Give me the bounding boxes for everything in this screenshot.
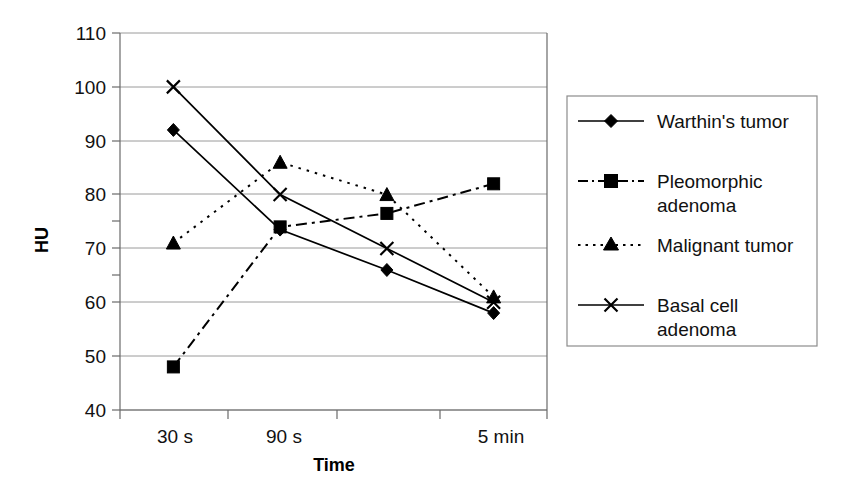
y-tick-label-90: 90 [85, 131, 106, 152]
y-tick-label-70: 70 [85, 238, 106, 259]
legend-label-4: Basal cell [657, 295, 738, 316]
legend-label-4-line2: adenoma [657, 319, 737, 340]
y-tick-label-60: 60 [85, 292, 106, 313]
y-tick-label-110: 110 [76, 23, 106, 44]
x-axis-title: Time [313, 455, 355, 475]
y-tick-label-80: 80 [85, 184, 106, 205]
legend-label-1: Warthin's tumor [657, 111, 789, 132]
x-tick-label-1: 30 s [157, 426, 193, 447]
y-tick-marks [112, 33, 120, 410]
data-point-square-icon [274, 221, 286, 233]
legend-label-2: Pleomorphic [657, 171, 763, 192]
y-tick-label-100: 100 [74, 77, 106, 98]
data-point-square-icon [381, 207, 393, 219]
x-tick-label-4: 5 min [478, 426, 524, 447]
x-tick-label-2: 90 s [266, 426, 302, 447]
legend: Warthin's tumor Pleomorphic adenoma Mali… [567, 96, 817, 346]
chart-figure: 110 100 90 80 70 60 50 40 HU 30 s 90 s 5… [0, 0, 843, 498]
data-point-square-icon [488, 178, 500, 190]
legend-marker-square-icon [605, 175, 618, 188]
legend-label-2-line2: adenoma [657, 195, 737, 216]
y-tick-label-50: 50 [85, 346, 106, 367]
y-axis-title: HU [32, 227, 52, 253]
x-tick-marks [120, 410, 547, 419]
y-tick-label-40: 40 [85, 400, 106, 421]
data-point-square-icon [167, 361, 179, 373]
legend-label-3: Malignant tumor [657, 235, 794, 256]
line-chart: 110 100 90 80 70 60 50 40 HU 30 s 90 s 5… [0, 0, 843, 498]
